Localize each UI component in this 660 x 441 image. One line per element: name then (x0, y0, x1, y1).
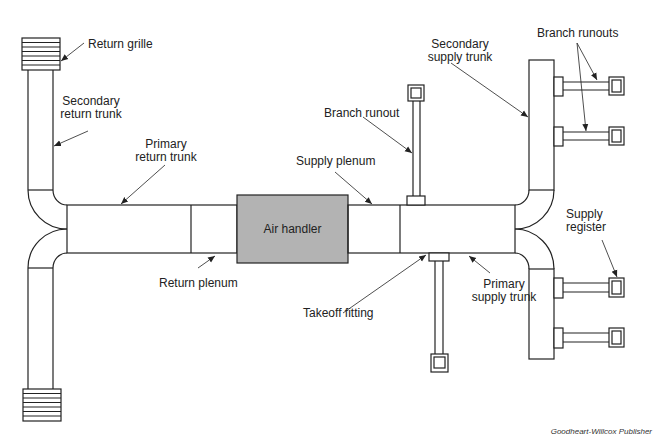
secondary-supply-trunk-upper (515, 60, 624, 229)
label-takeoff-fitting: Takeoff fitting (303, 306, 374, 320)
branch-runout-upper (407, 85, 425, 205)
primary-supply-trunk (348, 205, 515, 253)
label-return-plenum: Return plenum (159, 276, 238, 290)
label-primary-supply-trunk-1: Primary (462, 277, 546, 291)
label-primary-supply-trunk-2: supply trunk (462, 290, 546, 304)
primary-return-trunk (67, 205, 237, 253)
label-branch-runouts: Branch runouts (537, 26, 618, 40)
label-supply-register-1: Supply (566, 207, 603, 221)
return-grille-top (22, 38, 60, 70)
label-supply-plenum: Supply plenum (296, 154, 375, 168)
label-branch-runout: Branch runout (324, 106, 399, 120)
label-secondary-supply-trunk-1: Secondary (420, 37, 500, 51)
duct-diagram (0, 0, 660, 441)
label-supply-register-2: register (566, 220, 606, 234)
label-secondary-return-trunk-2: return trunk (56, 107, 126, 121)
return-grille-bottom (23, 389, 61, 421)
publisher-credit: Goodheart-Willcox Publisher (551, 427, 652, 436)
label-return-grille: Return grille (88, 37, 153, 51)
label-secondary-return-trunk-1: Secondary (56, 94, 126, 108)
branch-runout-lower (429, 253, 449, 372)
label-primary-return-trunk-2: return trunk (131, 150, 201, 164)
leader-arrows (54, 43, 617, 313)
label-secondary-supply-trunk-2: supply trunk (420, 50, 500, 64)
label-primary-return-trunk-1: Primary (131, 137, 201, 151)
air-handler-label: Air handler (237, 222, 348, 236)
secondary-return-trunk-bottom (28, 229, 67, 389)
